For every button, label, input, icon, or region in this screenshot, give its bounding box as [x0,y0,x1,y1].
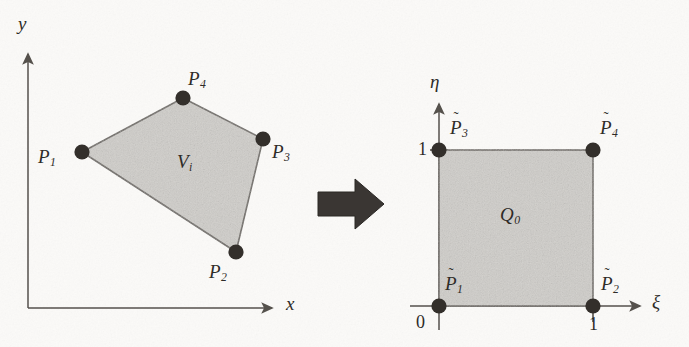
tilde-accent-p2: ˜ [601,265,613,280]
point-label-p1-base: P [38,146,50,167]
point-label-p3: P3 [272,142,290,163]
origin-tick-label: 0 [416,313,425,331]
vertex-dot-p1 [74,144,89,159]
tilde-accent-p1: ˜ [445,265,457,280]
p2-tilde-group: ˜P [601,274,613,293]
eta-tick-label-one: 1 [418,140,427,158]
figure-canvas: y x P1 P2 P3 P4 Vi η ξ 1 1 0 ˜P1 ˜P2 ˜P3… [0,0,689,347]
point-label-p3-tilde-sub: 3 [462,127,468,140]
y-axis-label: y [18,14,26,33]
vertex-dot-p2-tilde [585,298,600,313]
vertex-dot-p4-tilde [585,142,600,157]
point-label-p4-tilde: ˜P4 [600,118,618,139]
vertex-dot-p1-tilde [431,298,446,313]
xi-axis-label: ξ [652,292,660,311]
point-label-p1-sub: 1 [50,156,56,169]
point-label-p1: P1 [38,147,56,168]
point-label-p3-base: P [272,141,284,162]
figure-graphics [0,0,689,347]
xi-tick-label-one: 1 [589,315,598,333]
point-label-p4: P4 [188,69,206,90]
x-axis-label: x [286,294,294,313]
point-label-p3-sub: 3 [284,151,290,164]
point-label-p3-tilde: ˜P3 [450,118,468,139]
region-label-vi-sub: i [189,161,192,174]
point-label-p2-tilde: ˜P2 [601,274,619,295]
vertex-dot-p3 [255,131,270,146]
region-label-vi: Vi [177,152,192,173]
point-label-p1-tilde-sub: 1 [457,283,463,296]
region-label-vi-base: V [177,151,189,172]
point-label-p2-sub: 2 [221,271,227,284]
tilde-accent-p4: ˜ [600,109,612,124]
point-label-p4-base: P [188,68,200,89]
point-label-p1-tilde: ˜P1 [445,274,463,295]
region-label-q0-base: Q [500,204,514,225]
vertex-dot-p3-tilde [431,142,446,157]
point-label-p2: P2 [209,262,227,283]
p4-tilde-group: ˜P [600,118,612,137]
region-label-q0-sub: 0 [514,214,520,227]
vertex-dot-p2 [228,244,243,259]
point-label-p2-tilde-sub: 2 [613,283,619,296]
p1-tilde-group: ˜P [445,274,457,293]
point-label-p4-tilde-sub: 4 [612,127,618,140]
eta-axis-label: η [430,72,439,91]
point-label-p4-sub: 4 [200,78,206,91]
tilde-accent-p3: ˜ [450,109,462,124]
point-label-p2-base: P [209,261,221,282]
p3-tilde-group: ˜P [450,118,462,137]
region-label-q0: Q0 [500,205,520,226]
vertex-dot-p4 [175,90,190,105]
